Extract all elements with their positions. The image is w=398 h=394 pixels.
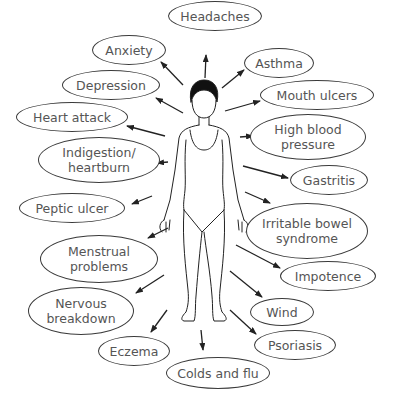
- condition-eczema: Eczema: [98, 336, 170, 366]
- condition-indigestion-heartburn: Indigestion/ heartburn: [38, 137, 160, 183]
- condition-asthma: Asthma: [244, 48, 314, 78]
- condition-colds-and-flu: Colds and flu: [166, 357, 270, 389]
- condition-impotence: Impotence: [280, 261, 376, 291]
- condition-wind: Wind: [250, 298, 314, 326]
- condition-nervous-breakdown: Nervous breakdown: [28, 287, 134, 335]
- condition-headaches: Headaches: [168, 1, 262, 31]
- condition-peptic-ulcer: Peptic ulcer: [19, 193, 125, 223]
- condition-mouth-ulcers: Mouth ulcers: [260, 80, 374, 110]
- condition-heart-attack: Heart attack: [16, 102, 128, 132]
- condition-psoriasis: Psoriasis: [254, 330, 336, 360]
- condition-high-blood-pressure: High blood pressure: [250, 114, 366, 160]
- condition-irritable-bowel-syndrome: Irritable bowel syndrome: [246, 203, 368, 259]
- condition-depression: Depression: [62, 70, 160, 100]
- condition-menstrual-problems: Menstrual problems: [40, 235, 158, 283]
- condition-anxiety: Anxiety: [92, 35, 166, 65]
- condition-gastritis: Gastritis: [290, 165, 368, 195]
- stress-effects-diagram: AnxietyHeadachesAsthmaDepressionMouth ul…: [0, 0, 398, 394]
